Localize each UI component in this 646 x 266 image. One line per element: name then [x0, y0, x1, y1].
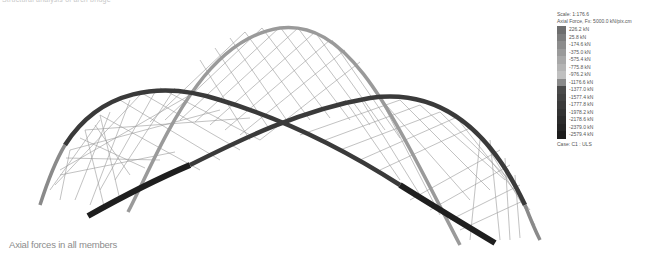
- axial-force-legend: Scale: 1:176.6 Axial Force, Fx: 5000.0 k…: [557, 12, 632, 149]
- legend-load-case: Case: C1 : ULS: [557, 142, 632, 147]
- legend-swatch: [557, 71, 566, 79]
- legend-swatch: [557, 26, 566, 34]
- legend-entry: -174.6 kN: [557, 41, 632, 49]
- legend-swatch: [557, 56, 566, 64]
- legend-title: Axial Force, Fx: 5000.0 kN/pix.cm: [557, 19, 632, 24]
- legend-entry: -2579.4 kN: [557, 131, 632, 139]
- legend-label: -1978.2 kN: [569, 110, 593, 115]
- legend-swatch: [557, 86, 566, 94]
- legend-label: -775.8 kN: [569, 65, 591, 70]
- legend-swatch: [557, 64, 566, 72]
- legend-swatch: [557, 116, 566, 124]
- legend-swatch: [557, 79, 566, 87]
- dark-arch-1-thick-end[interactable]: [400, 185, 495, 243]
- legend-entry: -1377.0 kN: [557, 86, 632, 94]
- legend-label: -2379.0 kN: [569, 125, 593, 130]
- legend-entries: 226.2 kN 25.8 kN -174.6 kN -375.0 kN -57…: [557, 26, 632, 139]
- legend-entry: -375.0 kN: [557, 49, 632, 57]
- figure-caption: Axial forces in all members: [9, 239, 117, 250]
- legend-label: 25.8 kN: [569, 35, 586, 40]
- legend-label: -1176.6 kN: [569, 80, 593, 85]
- legend-swatch: [557, 101, 566, 109]
- legend-scale: Scale: 1:176.6: [557, 12, 632, 17]
- bridge-model-view[interactable]: [0, 0, 646, 266]
- legend-entry: -1978.2 kN: [557, 109, 632, 117]
- legend-label: -375.0 kN: [569, 50, 591, 55]
- legend-entry: -976.2 kN: [557, 71, 632, 79]
- legend-label: -976.2 kN: [569, 72, 591, 77]
- dark-arch-2[interactable]: [190, 97, 525, 205]
- legend-swatch: [557, 49, 566, 57]
- dark-arch-2-thick-end[interactable]: [88, 165, 190, 216]
- legend-entry: -1176.6 kN: [557, 79, 632, 87]
- legend-label: -2579.4 kN: [569, 132, 593, 137]
- legend-label: 226.2 kN: [569, 27, 589, 32]
- legend-entry: -2379.0 kN: [557, 124, 632, 132]
- legend-entry: -1577.4 kN: [557, 94, 632, 102]
- legend-swatch: [557, 131, 566, 139]
- legend-swatch: [557, 34, 566, 42]
- legend-label: -2178.6 kN: [569, 117, 593, 122]
- legend-entry: -775.8 kN: [557, 64, 632, 72]
- hanger-cables: [50, 27, 535, 240]
- legend-swatch: [557, 109, 566, 117]
- legend-label: -1577.4 kN: [569, 95, 593, 100]
- grey-central-arch[interactable]: [128, 28, 460, 245]
- legend-entry: -575.4 kN: [557, 56, 632, 64]
- legend-entry: 226.2 kN: [557, 26, 632, 34]
- legend-swatch: [557, 124, 566, 132]
- legend-label: -1777.8 kN: [569, 102, 593, 107]
- legend-swatch: [557, 41, 566, 49]
- legend-entry: -1777.8 kN: [557, 101, 632, 109]
- legend-label: -1377.0 kN: [569, 87, 593, 92]
- legend-entry: 25.8 kN: [557, 34, 632, 42]
- legend-entry: -2178.6 kN: [557, 116, 632, 124]
- legend-label: -575.4 kN: [569, 57, 591, 62]
- legend-swatch: [557, 94, 566, 102]
- dark-arch-2-right-foot[interactable]: [525, 205, 540, 240]
- legend-label: -174.6 kN: [569, 42, 591, 47]
